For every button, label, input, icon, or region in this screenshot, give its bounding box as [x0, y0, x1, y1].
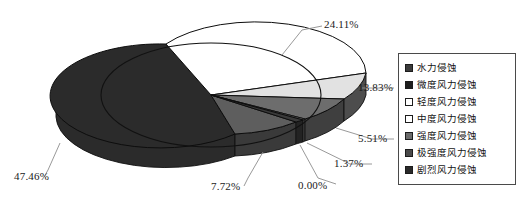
- legend-swatch-qingdu: [405, 98, 413, 106]
- pie-label-1: 1.37%: [334, 157, 363, 169]
- legend-label-qiangdu: 强度风力侵蚀: [417, 131, 477, 141]
- legend-item-jiqiangdu[interactable]: 极强度风力侵蚀: [405, 144, 515, 161]
- pie-label-5: 5.51%: [358, 132, 387, 144]
- pie-label-47: 47.46%: [14, 170, 49, 182]
- pie-label-0: 0.00%: [298, 179, 327, 191]
- legend-label-jiqiangdu: 极强度风力侵蚀: [417, 148, 487, 158]
- legend-swatch-zhongdu: [405, 115, 413, 123]
- leader-7: [244, 152, 263, 186]
- legend-label-zhongdu: 中度风力侵蚀: [417, 114, 477, 124]
- legend-item-qiangdu[interactable]: 强度风力侵蚀: [405, 127, 515, 144]
- legend-item-weidu[interactable]: 微度风力侵蚀: [405, 76, 515, 93]
- legend-swatch-shuili: [405, 64, 413, 72]
- legend-label-qingdu: 轻度风力侵蚀: [417, 97, 477, 107]
- legend-label-weidu: 微度风力侵蚀: [417, 80, 477, 90]
- legend-item-qingdu[interactable]: 轻度风力侵蚀: [405, 93, 515, 110]
- pie-chart-figure: 24.11% 13.83% 5.51% 1.37% 0.00% 7.72% 47…: [0, 0, 522, 220]
- legend-item-juilie[interactable]: 剧烈风力侵蚀: [405, 161, 515, 178]
- legend-swatch-juilie: [405, 166, 413, 174]
- chart-legend: 水力侵蚀 微度风力侵蚀 轻度风力侵蚀 中度风力侵蚀 强度风力侵蚀 极强度风力侵蚀…: [398, 53, 516, 185]
- legend-item-shuili[interactable]: 水力侵蚀: [405, 59, 515, 76]
- legend-swatch-jiqiangdu: [405, 149, 413, 157]
- legend-swatch-weidu: [405, 81, 413, 89]
- legend-swatch-qiangdu: [405, 132, 413, 140]
- legend-item-zhongdu[interactable]: 中度风力侵蚀: [405, 110, 515, 127]
- pie-label-7: 7.72%: [211, 180, 240, 192]
- legend-label-juilie: 剧烈风力侵蚀: [417, 165, 477, 175]
- legend-label-shuili: 水力侵蚀: [417, 63, 457, 73]
- pie-label-13: 13.83%: [358, 81, 393, 93]
- pie-label-24: 24.11%: [324, 18, 359, 30]
